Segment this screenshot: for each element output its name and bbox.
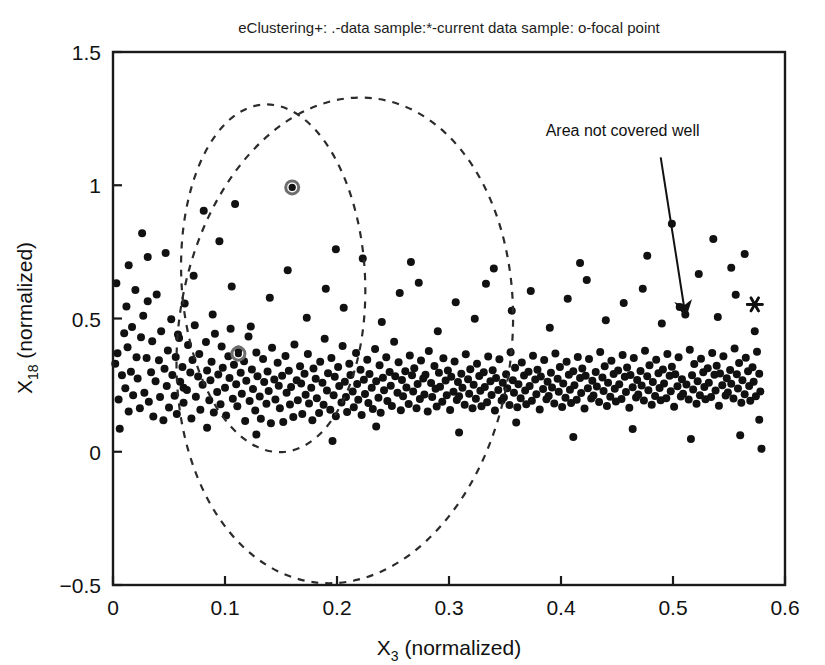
x-tick-label: 0 [107,596,119,619]
data-point [118,371,126,379]
data-point [294,396,302,404]
data-point [248,365,256,373]
data-point [399,392,407,400]
data-point [249,385,257,393]
data-point [729,394,737,402]
data-point [658,320,666,328]
data-point [215,237,223,245]
data-point [409,388,417,396]
data-point [550,400,558,408]
data-point [390,338,398,346]
data-point [512,418,520,426]
data-point [205,396,213,404]
y-tick-label: 0 [89,441,101,464]
data-point [602,316,610,324]
data-point [140,389,148,397]
data-point [287,383,295,391]
data-point [644,386,652,394]
data-point [742,354,750,362]
data-point [253,372,261,380]
x-tick-label: 0.4 [546,596,576,619]
data-point [125,261,133,269]
data-point [252,349,260,357]
data-point [165,404,173,412]
data-point [398,376,406,384]
data-point [137,333,145,341]
data-point [667,387,675,395]
data-point [139,312,147,320]
data-point [259,355,267,363]
data-point [695,270,703,278]
data-point [415,279,423,287]
data-point [155,356,163,364]
data-point [417,357,425,365]
data-point [488,391,496,399]
x-tick-label: 0.5 [658,596,687,619]
data-point [511,364,519,372]
data-point [368,384,376,392]
data-point [639,285,647,293]
x-tick-label: 0.3 [434,596,463,619]
data-point [120,329,128,337]
data-point [312,375,320,383]
data-point [545,392,553,400]
data-point [305,400,313,408]
data-point [233,402,241,410]
data-point [376,361,384,369]
data-point [330,391,338,399]
data-point [369,405,377,413]
data-point [407,258,415,266]
data-point [727,264,735,272]
data-point [113,349,121,357]
data-point [360,376,368,384]
data-point [533,366,541,374]
data-point [281,352,289,360]
data-point [268,344,276,352]
data-point [734,385,742,393]
data-point [707,393,715,401]
data-point [526,382,534,390]
data-point [727,380,735,388]
data-point [257,415,265,423]
annotation-label: Area not covered well [546,122,700,139]
data-point [555,388,563,396]
data-point [341,378,349,386]
data-point [434,327,442,335]
data-point [581,405,589,413]
data-point [149,413,157,421]
data-point [213,388,221,396]
data-point [279,418,287,426]
data-point [619,351,627,359]
data-point [648,401,656,409]
data-point [726,366,734,374]
data-point [396,289,404,297]
data-point [246,397,254,405]
data-point [267,419,275,427]
data-point [461,401,469,409]
data-point [345,360,353,368]
data-point [471,315,479,323]
data-point [626,371,634,379]
data-point [659,365,667,373]
data-point [513,403,521,411]
data-point [713,362,721,370]
y-tick-label: −0.5 [60,574,101,597]
data-point [382,353,390,361]
y-tick-label: 1 [89,174,101,197]
data-point [559,380,567,388]
data-point [749,363,757,371]
data-point [755,370,763,378]
data-point [473,360,481,368]
data-point [709,235,717,243]
data-point [168,371,176,379]
data-point [617,395,625,403]
data-point [689,385,697,393]
data-point [308,416,316,424]
data-point [716,369,724,377]
data-point [625,404,633,412]
data-point [214,370,222,378]
data-point [365,370,373,378]
data-point [750,378,758,386]
data-point [424,408,432,416]
data-point [435,369,443,377]
